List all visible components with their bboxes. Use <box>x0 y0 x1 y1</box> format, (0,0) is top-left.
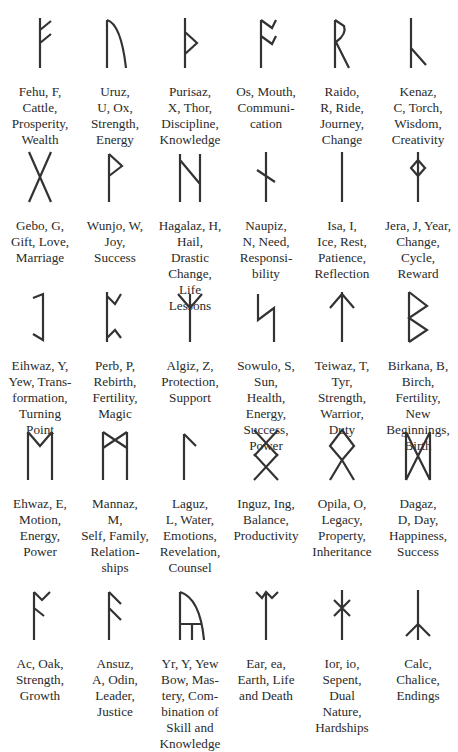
uruz-rune-icon <box>95 16 135 70</box>
rune-entry: Ehwaz, E, Motion, Energy, Power <box>2 428 78 560</box>
raido-rune-icon <box>322 16 362 70</box>
rune-label: Inguz, Ing, Balance, Productivity <box>228 496 304 544</box>
rune-label: Mannaz, M, Self, Family, Relation- ships <box>77 496 153 576</box>
rune-label: Teiwaz, T, Tyr, Strength, Warrior, Duty <box>304 358 380 438</box>
rune-label: Calc, Chalice, Endings <box>380 656 456 704</box>
isa-rune-icon <box>322 150 362 204</box>
rune-label: Fehu, F, Cattle, Prosperity, Wealth <box>2 84 78 148</box>
rune-entry: Dagaz, D, Day, Happiness, Success <box>380 428 456 560</box>
kenaz-rune-icon <box>398 16 438 70</box>
rune-entry: Inguz, Ing, Balance, Productivity <box>228 428 304 544</box>
birkana-rune-icon <box>398 290 438 344</box>
rune-label: Perb, P, Rebirth, Fertility, Magic <box>77 358 153 422</box>
rune-entry: Kenaz, C, Torch, Wisdom, Creativity <box>380 16 456 148</box>
hagalaz-rune-icon <box>170 150 210 204</box>
rune-entry: Opila, O, Legacy, Property, Inheritance <box>304 428 380 560</box>
rune-entry: Teiwaz, T, Tyr, Strength, Warrior, Duty <box>304 290 380 438</box>
jera-rune-icon <box>398 150 438 204</box>
ear-rune-icon <box>246 588 286 642</box>
teiwaz-rune-icon <box>322 290 362 344</box>
rune-label: Jera, J, Year, Change, Cycle, Reward <box>380 218 456 282</box>
rune-entry: Jera, J, Year, Change, Cycle, Reward <box>380 150 456 282</box>
rune-entry: Naupiz, N, Need, Responsi- bility <box>228 150 304 282</box>
rune-entry: Ear, ea, Earth, Life and Death <box>228 588 304 704</box>
rune-entry: Purisaz, X, Thor, Discipline, Knowledge <box>152 16 228 148</box>
ac-rune-icon <box>20 588 60 642</box>
rune-entry: Eihwaz, Y, Yew, Trans- formation, Turnin… <box>2 290 78 438</box>
rune-label: Ehwaz, E, Motion, Energy, Power <box>2 496 78 560</box>
rune-label: Laguz, L, Water, Emotions, Revelation, C… <box>152 496 228 576</box>
laguz-rune-icon <box>170 428 210 482</box>
rune-label: Ior, io, Sepent, Dual Nature, Hardships <box>304 656 380 736</box>
eihwaz-rune-icon <box>20 290 60 344</box>
inguz-rune-icon <box>246 428 286 482</box>
purisaz-rune-icon <box>170 16 210 70</box>
sowulo-rune-icon <box>246 290 286 344</box>
naupiz-rune-icon <box>246 150 286 204</box>
calc-rune-icon <box>398 588 438 642</box>
fehu-rune-icon <box>20 16 60 70</box>
rune-label: Uruz, U, Ox, Strength, Energy <box>77 84 153 148</box>
rune-entry: Ior, io, Sepent, Dual Nature, Hardships <box>304 588 380 736</box>
rune-label: Yr, Y, Yew Bow, Mas- tery, Com- bination… <box>152 656 228 752</box>
rune-entry: Gebo, G, Gift, Love, Marriage <box>2 150 78 266</box>
rune-entry: Algiz, Z, Protection, Support <box>152 290 228 406</box>
yr-rune-icon <box>170 588 210 642</box>
rune-label: Gebo, G, Gift, Love, Marriage <box>2 218 78 266</box>
rune-label: Naupiz, N, Need, Responsi- bility <box>228 218 304 282</box>
rune-entry: Calc, Chalice, Endings <box>380 588 456 704</box>
ehwaz-rune-icon <box>20 428 60 482</box>
rune-label: Dagaz, D, Day, Happiness, Success <box>380 496 456 560</box>
dagaz-rune-icon <box>398 428 438 482</box>
rune-entry: Perb, P, Rebirth, Fertility, Magic <box>77 290 153 422</box>
gebo-rune-icon <box>20 150 60 204</box>
algiz-rune-icon <box>170 290 210 344</box>
rune-label: Kenaz, C, Torch, Wisdom, Creativity <box>380 84 456 148</box>
rune-entry: Fehu, F, Cattle, Prosperity, Wealth <box>2 16 78 148</box>
rune-entry: Yr, Y, Yew Bow, Mas- tery, Com- bination… <box>152 588 228 752</box>
ior-rune-icon <box>322 588 362 642</box>
rune-entry: Wunjo, W, Joy, Success <box>77 150 153 266</box>
opila-rune-icon <box>322 428 362 482</box>
rune-label: Purisaz, X, Thor, Discipline, Knowledge <box>152 84 228 148</box>
rune-entry: Ac, Oak, Strength, Growth <box>2 588 78 704</box>
mannaz-rune-icon <box>95 428 135 482</box>
rune-entry: Uruz, U, Ox, Strength, Energy <box>77 16 153 148</box>
rune-label: Raido, R, Ride, Journey, Change <box>304 84 380 148</box>
rune-entry: Raido, R, Ride, Journey, Change <box>304 16 380 148</box>
rune-entry: Os, Mouth, Communi- cation <box>228 16 304 132</box>
os-rune-icon <box>246 16 286 70</box>
rune-label: Isa, I, Ice, Rest, Patience, Reflection <box>304 218 380 282</box>
rune-label: Wunjo, W, Joy, Success <box>77 218 153 266</box>
rune-label: Ansuz, A, Odin, Leader, Justice <box>77 656 153 720</box>
ansuz-rune-icon <box>95 588 135 642</box>
rune-entry: Laguz, L, Water, Emotions, Revelation, C… <box>152 428 228 576</box>
rune-label: Ac, Oak, Strength, Growth <box>2 656 78 704</box>
rune-label: Algiz, Z, Protection, Support <box>152 358 228 406</box>
perb-rune-icon <box>95 290 135 344</box>
rune-label: Os, Mouth, Communi- cation <box>228 84 304 132</box>
rune-label: Ear, ea, Earth, Life and Death <box>228 656 304 704</box>
rune-entry: Isa, I, Ice, Rest, Patience, Reflection <box>304 150 380 282</box>
rune-label: Eihwaz, Y, Yew, Trans- formation, Turnin… <box>2 358 78 438</box>
rune-entry: Ansuz, A, Odin, Leader, Justice <box>77 588 153 720</box>
rune-label: Opila, O, Legacy, Property, Inheritance <box>304 496 380 560</box>
wunjo-rune-icon <box>95 150 135 204</box>
rune-entry: Mannaz, M, Self, Family, Relation- ships <box>77 428 153 576</box>
